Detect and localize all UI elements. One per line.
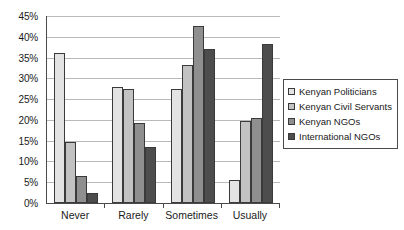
y-tick-label: 0% — [24, 198, 38, 209]
bar — [145, 147, 156, 203]
bar-chart: 0%5%10%15%20%25%30%35%40%45% NeverRarely… — [0, 0, 404, 230]
plot-area — [46, 16, 280, 204]
bar — [240, 121, 251, 203]
y-tick-label: 20% — [19, 114, 38, 125]
y-tick-label: 45% — [19, 11, 38, 22]
y-tick-label: 25% — [19, 94, 38, 105]
legend-item: Kenyan Politicians — [288, 84, 392, 99]
bar — [204, 49, 215, 203]
x-axis-tick — [163, 203, 164, 208]
x-axis-tick — [279, 203, 280, 208]
bar-group-rarely — [105, 16, 163, 203]
legend-swatch-icon — [288, 103, 295, 110]
y-tick-label: 30% — [19, 73, 38, 84]
bar — [123, 89, 134, 203]
y-tick-label: 10% — [19, 156, 38, 167]
bar — [76, 176, 87, 203]
bars-layer — [47, 16, 280, 203]
legend-item: International NGOs — [288, 129, 392, 144]
bar — [134, 123, 145, 203]
x-tick-label: Sometimes — [165, 209, 218, 221]
bar — [182, 65, 193, 203]
bar — [251, 118, 262, 203]
x-axis-tick — [104, 203, 105, 208]
legend-swatch-icon — [288, 118, 295, 125]
legend-item: Kenyan Civil Servants — [288, 99, 392, 114]
x-axis-tick — [221, 203, 222, 208]
x-tick-label: Rarely — [118, 209, 148, 221]
x-tick-label: Usually — [233, 209, 267, 221]
legend-swatch-icon — [288, 88, 295, 95]
bar — [65, 142, 76, 203]
bar-group-never — [47, 16, 105, 203]
bar-group-usually — [222, 16, 280, 203]
y-tick-label: 15% — [19, 135, 38, 146]
bar — [171, 89, 182, 203]
bar-group-sometimes — [164, 16, 222, 203]
y-tick-label: 35% — [19, 52, 38, 63]
legend-item: Kenyan NGOs — [288, 114, 392, 129]
legend-label: International NGOs — [299, 132, 380, 142]
legend: Kenyan PoliticiansKenyan Civil ServantsK… — [283, 79, 398, 149]
bar — [229, 180, 240, 203]
y-axis: 0%5%10%15%20%25%30%35%40%45% — [0, 0, 42, 230]
bar — [193, 26, 204, 203]
y-tick-label: 40% — [19, 31, 38, 42]
bar — [112, 87, 123, 203]
y-tick-label: 5% — [24, 177, 38, 188]
legend-swatch-icon — [288, 133, 295, 140]
legend-label: Kenyan NGOs — [299, 117, 360, 127]
bar — [87, 193, 98, 203]
x-tick-label: Never — [61, 209, 89, 221]
bar — [54, 53, 65, 203]
legend-label: Kenyan Civil Servants — [299, 102, 392, 112]
bar — [262, 44, 273, 203]
legend-label: Kenyan Politicians — [299, 87, 377, 97]
